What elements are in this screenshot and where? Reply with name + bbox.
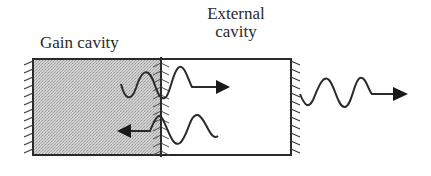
- external-cavity-label: External cavity: [196, 5, 276, 41]
- output-wave: [300, 78, 408, 107]
- right-mirror-hatching: [291, 61, 300, 153]
- external-cavity-label-line2: cavity: [196, 23, 276, 41]
- gain-cavity-label: Gain cavity: [40, 34, 119, 52]
- left-mirror-hatching: [24, 61, 33, 153]
- external-cavity-box: [161, 59, 291, 155]
- arrow-right-output-icon: [393, 87, 408, 101]
- external-cavity-label-line1: External: [196, 5, 276, 23]
- gain-cavity-box: [33, 59, 161, 155]
